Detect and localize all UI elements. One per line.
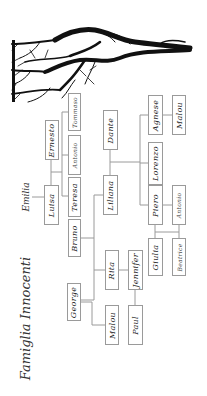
person-name: Paul [131, 316, 140, 335]
person-giulia: Giulia [148, 238, 163, 276]
person-beatrice: Beatrice [172, 238, 186, 276]
person-name: Lorenzo [151, 146, 160, 181]
person-agnese: Agnese [148, 95, 163, 135]
person-ernesto: Ernesto [45, 120, 59, 160]
person-name: Antonio [176, 192, 183, 218]
person-luisa: Luisa [44, 185, 59, 225]
person-rita: Rita [105, 250, 119, 290]
person-dante: Dante [103, 110, 118, 150]
person-tommaso: Tommaso [68, 93, 81, 131]
title-text: Famiglia Innocenti [19, 256, 34, 379]
person-name: Jennifer [131, 253, 140, 288]
person-malou-2: Malou [105, 305, 119, 345]
person-name: Rita [108, 261, 117, 279]
person-antonio: Antonio [68, 135, 81, 175]
person-name: Antonio [71, 142, 78, 168]
person-name: Beatrice [176, 243, 183, 271]
person-teresa: Teresa [68, 177, 81, 217]
person-lorenzo: Lorenzo [148, 142, 163, 185]
person-jennifer: Jennifer [128, 250, 143, 290]
person-name: Dante [106, 117, 115, 143]
person-liliana: Liliana [103, 175, 118, 215]
person-name: Emilia [21, 182, 31, 211]
person-antonio-2: Antonio [172, 185, 186, 225]
family-tree-diagram: Famiglia Innocenti Emilia Luisa Ernesto … [0, 0, 207, 396]
person-bruno: Bruno [68, 219, 81, 257]
diagram-title: Famiglia Innocenti [12, 270, 40, 366]
person-malou: Malou [172, 95, 186, 135]
person-name: Tommaso [71, 97, 78, 128]
person-name: Piero [151, 194, 160, 217]
person-piero: Piero [148, 185, 163, 225]
person-name: Malou [175, 102, 184, 129]
person-name: Ernesto [48, 123, 57, 157]
person-name: George [70, 286, 79, 317]
person-emilia: Emilia [18, 178, 34, 216]
person-george: George [67, 283, 81, 321]
person-name: Agnese [151, 99, 160, 130]
person-name: Liliana [106, 180, 115, 210]
person-paul: Paul [128, 305, 143, 345]
person-name: Bruno [70, 225, 79, 251]
person-name: Teresa [70, 183, 79, 212]
person-name: Malou [108, 312, 117, 339]
person-name: Luisa [47, 193, 56, 216]
person-name: Giulia [151, 244, 160, 270]
